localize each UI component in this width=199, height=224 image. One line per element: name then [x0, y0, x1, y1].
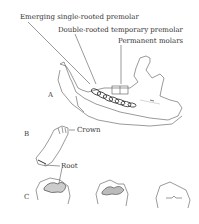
tooth-c3-outline: [156, 182, 190, 208]
dental-diagram: Emerging single-rooted premolar Double-r…: [0, 0, 199, 224]
tooth-c1-enamel: [44, 182, 66, 192]
label-double-rooted-premolar: Double-rooted temporary premolar: [58, 27, 183, 34]
panel-label-a: A: [48, 92, 53, 99]
tooth-b-outline: [36, 126, 68, 166]
tooth-c2-enamel: [102, 186, 124, 195]
label-emerging-premolar: Emerging single-rooted premolar: [20, 14, 139, 21]
tooth-b-crown-ridges: [58, 127, 66, 134]
label-permanent-molars: Permanent molars: [118, 38, 183, 45]
mandible-inner-line: [76, 96, 84, 112]
leader-line-double: [75, 34, 96, 84]
tooth-c3-groove: [166, 196, 182, 198]
label-root: Root: [61, 163, 78, 170]
panel-label-b: B: [24, 131, 29, 138]
label-crown: Crown: [77, 127, 100, 134]
panel-label-c: C: [24, 194, 29, 201]
